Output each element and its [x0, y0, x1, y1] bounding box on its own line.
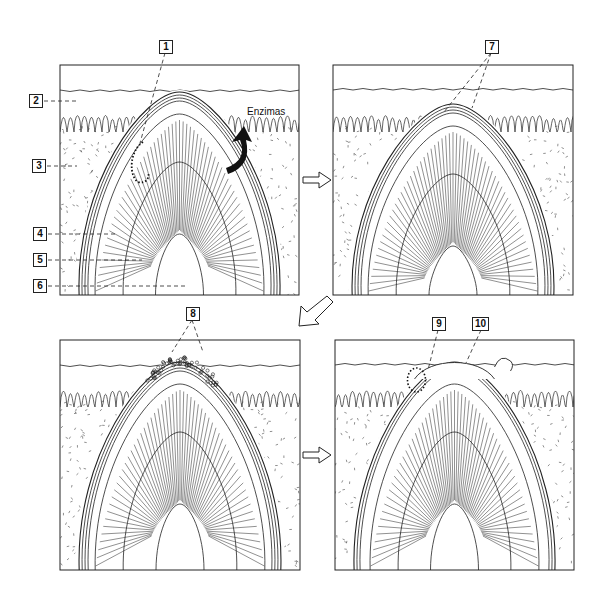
arrow-2-to-3-icon: [299, 296, 333, 326]
callout-4: 4: [33, 227, 47, 241]
panel-4: [333, 340, 580, 573]
callout-7: 7: [485, 40, 499, 54]
diagram-figure: [0, 0, 604, 605]
callout-3: 3: [32, 159, 46, 173]
callout-8: 8: [186, 307, 200, 321]
leader-line-7: [444, 53, 491, 112]
leader-line-9: [428, 330, 438, 370]
panel-1: [60, 65, 305, 297]
arrow-1-to-2-icon: [303, 172, 331, 188]
callout-10: 10: [472, 317, 489, 331]
panel-3: [60, 340, 320, 573]
arrow-3-to-4-icon: [303, 447, 331, 463]
enzymes-annotation: Enzimas: [247, 106, 285, 117]
callout-6: 6: [33, 279, 47, 293]
leader-line-8: [172, 320, 192, 352]
panel-2: [331, 65, 593, 297]
callout-2: 2: [29, 94, 43, 108]
callout-5: 5: [33, 253, 47, 267]
callout-9: 9: [432, 317, 446, 331]
callout-1: 1: [159, 40, 173, 54]
diagram-canvas: [0, 0, 604, 605]
leader-line-10: [466, 330, 481, 363]
